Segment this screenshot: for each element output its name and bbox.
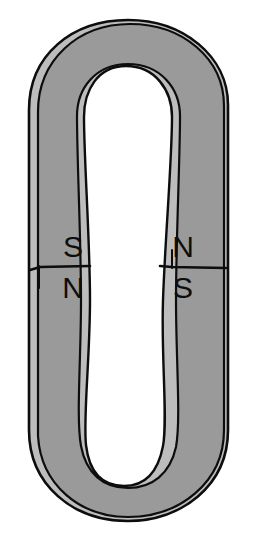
- pole-label-left-upper: S: [56, 232, 90, 262]
- pole-label-right-upper: N: [166, 232, 200, 262]
- magnet-diagram: S N N S: [0, 0, 256, 545]
- pole-label-right-lower: S: [166, 273, 200, 303]
- magnet-cavity: [84, 66, 172, 486]
- magnet-illustration: [0, 0, 256, 545]
- pole-label-left-lower: N: [56, 273, 90, 303]
